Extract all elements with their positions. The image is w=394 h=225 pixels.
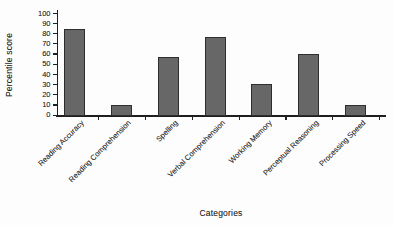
y-tick-label-0: 0	[27, 111, 51, 119]
y-tick-label-60: 60	[27, 50, 51, 58]
bar-reading-comprehension	[111, 105, 132, 116]
bar-perceptual-reasoning	[298, 54, 319, 116]
y-axis-tick	[53, 23, 57, 24]
y-tick-label-10: 10	[27, 101, 51, 109]
percentile-bar-chart: Percentile score Categories 010203040506…	[0, 0, 394, 225]
y-tick-label-90: 90	[27, 20, 51, 28]
x-axis-tick	[98, 116, 99, 120]
y-axis-tick	[53, 13, 57, 14]
bar-processing-speed	[345, 105, 366, 116]
y-axis-tick	[53, 115, 57, 116]
x-axis-tick	[332, 116, 333, 120]
category-label-spelling: Spelling	[155, 119, 179, 143]
x-axis-tick	[379, 116, 380, 120]
y-tick-label-80: 80	[27, 30, 51, 38]
bar-working-memory	[251, 84, 272, 116]
bar-reading-accuracy	[64, 29, 85, 116]
y-axis-tick	[53, 64, 57, 65]
category-label-reading-accuracy: Reading Accuracy	[37, 119, 86, 168]
y-tick-label-50: 50	[27, 60, 51, 68]
y-axis-tick	[53, 94, 57, 95]
y-axis-line	[57, 10, 58, 117]
y-axis-tick	[53, 84, 57, 85]
y-axis-tick	[53, 43, 57, 44]
y-axis-title: Percentile score	[4, 29, 14, 101]
x-axis-tick	[192, 116, 193, 120]
y-axis-tick	[53, 53, 57, 54]
bar-spelling	[158, 57, 179, 116]
x-axis-tick	[285, 116, 286, 120]
category-label-processing-speed: Processing Speed	[318, 119, 367, 168]
y-tick-label-70: 70	[27, 40, 51, 48]
x-axis-tick	[239, 116, 240, 120]
y-axis-tick	[53, 74, 57, 75]
bar-verbal-comprehension	[205, 37, 226, 116]
y-tick-label-100: 100	[27, 10, 51, 18]
x-axis-title: Categories	[57, 208, 385, 218]
x-axis-tick	[145, 116, 146, 120]
y-tick-label-20: 20	[27, 91, 51, 99]
category-label-working-memory: Working Memory	[227, 119, 273, 165]
y-tick-label-40: 40	[27, 71, 51, 79]
y-axis-tick	[53, 33, 57, 34]
y-tick-label-30: 30	[27, 81, 51, 89]
y-axis-tick	[53, 104, 57, 105]
